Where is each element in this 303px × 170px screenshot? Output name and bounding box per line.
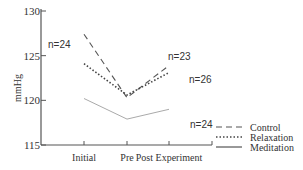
series-lines [84,34,169,119]
n-annotation: n=24 [48,39,71,50]
y-tick-label: 115 [24,139,41,151]
n-annotation: n=24 [190,119,213,130]
y-tick-label: 130 [24,5,41,17]
legend: ControlRelaxationMeditation [216,122,294,153]
axes: 115120125130InitialPrePost ExperimentmmH… [12,5,212,163]
series-control [84,34,169,97]
annotations: n=24n=23n=26n=24 [48,39,213,130]
y-axis-label: mmHg [12,74,23,102]
meditation-legend-label: Meditation [250,142,294,153]
x-tick-label: Post Experiment [136,152,203,163]
series-relaxation [84,64,169,95]
x-tick-label: Initial [72,152,96,163]
y-tick-label: 120 [24,94,41,106]
x-tick-label: Pre [120,152,134,163]
y-tick-label: 125 [24,50,41,62]
line-chart: 115120125130InitialPrePost ExperimentmmH… [0,0,303,170]
series-meditation [84,99,169,120]
n-annotation: n=26 [189,74,212,85]
n-annotation: n=23 [168,51,191,62]
